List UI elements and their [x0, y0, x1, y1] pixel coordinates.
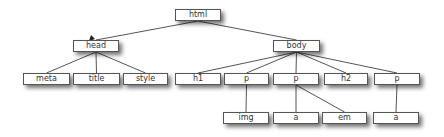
node-title: title: [73, 73, 120, 85]
edge-head-meta: [47, 52, 97, 73]
node-label: style: [136, 75, 155, 83]
edge-p2-em: [296, 85, 345, 112]
edge-body-h1: [198, 52, 297, 73]
edge-p3-a2: [396, 85, 397, 112]
node-label: head: [86, 42, 106, 50]
node-label: a: [394, 114, 399, 122]
node-html: html: [175, 9, 221, 21]
node-label: a: [294, 114, 299, 122]
node-h1: h1: [175, 73, 221, 85]
edge-body-p2: [296, 52, 297, 73]
node-label: body: [287, 42, 307, 50]
node-meta: meta: [23, 73, 70, 85]
node-label: p: [244, 75, 249, 83]
edge-head-title: [96, 52, 97, 73]
node-em: em: [322, 112, 367, 124]
node-label: p: [293, 75, 298, 83]
node-label: em: [338, 114, 351, 122]
node-p3: p: [374, 73, 420, 85]
edge-p1-img: [246, 85, 247, 112]
node-img: img: [223, 112, 269, 124]
node-a2: a: [373, 112, 419, 124]
node-head: head: [73, 40, 119, 52]
edge-html-body: [198, 21, 297, 40]
node-h2: h2: [324, 73, 368, 85]
dom-tree-diagram: htmlheadbodymetatitlestyleh1pph2pimgaema: [0, 0, 444, 137]
edge-html-head: [96, 21, 198, 40]
node-style: style: [123, 73, 168, 85]
node-p2: p: [273, 73, 319, 85]
node-label: h1: [193, 75, 203, 83]
edge-head-style: [96, 52, 146, 73]
edge-body-h2: [297, 52, 347, 73]
node-label: meta: [36, 75, 57, 83]
edge-body-p1: [247, 52, 297, 73]
node-label: title: [89, 75, 105, 83]
node-label: h2: [341, 75, 351, 83]
edge-body-p3: [297, 52, 398, 73]
node-label: html: [189, 11, 207, 19]
node-a1: a: [273, 112, 319, 124]
node-p1: p: [224, 73, 269, 85]
node-label: p: [394, 75, 399, 83]
node-label: img: [238, 114, 253, 122]
node-body: body: [273, 40, 320, 52]
